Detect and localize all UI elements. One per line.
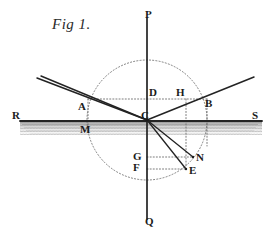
point-label-S: S [252,110,258,121]
point-E [185,168,187,170]
point-label-B: B [205,98,212,109]
point-label-N: N [196,152,204,163]
point-label-Q: Q [145,216,154,227]
point-label-P: P [145,9,152,20]
point-label-D: D [149,87,157,98]
upper-left-ray [41,76,147,120]
point-label-R: R [12,110,20,121]
point-label-H: H [176,87,185,98]
point-label-F: F [133,162,140,173]
point-N [192,156,194,158]
point-label-A: A [78,101,86,112]
point-label-E: E [189,165,196,176]
point-label-M: M [80,124,90,135]
optics-diagram-svg [0,0,274,239]
figure-caption: Fig 1. [52,16,91,33]
reflected-ray-CB [147,77,254,120]
point-label-C: C [141,110,149,121]
water-medium-band [20,122,262,136]
